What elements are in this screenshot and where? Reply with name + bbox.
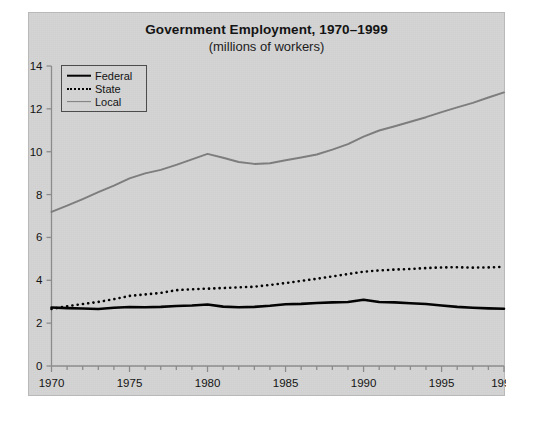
chart-figure: Government Employment, 1970–1999 (millio… xyxy=(28,12,505,396)
legend: Federal State Local xyxy=(61,65,147,112)
x-tick-label-group: 1970197519801985199019951999 xyxy=(39,377,506,389)
legend-item-local: Local xyxy=(66,95,142,108)
y-tick-label: 4 xyxy=(36,274,43,286)
legend-label-state: State xyxy=(95,83,121,95)
y-tick-label: 2 xyxy=(36,317,42,329)
legend-label-local: Local xyxy=(95,96,121,108)
legend-swatch-local-icon xyxy=(66,95,92,108)
legend-swatch-state-icon xyxy=(66,82,92,95)
x-tick-label: 1980 xyxy=(195,377,221,389)
x-tick-label: 1995 xyxy=(429,377,455,389)
y-tick-label: 12 xyxy=(30,103,43,115)
y-tick-label: 6 xyxy=(36,231,42,243)
series-line-state xyxy=(52,267,505,309)
legend-swatch-federal-icon xyxy=(66,69,92,82)
x-tick-label: 1985 xyxy=(273,377,299,389)
legend-item-federal: Federal xyxy=(66,69,142,82)
y-tick-label: 8 xyxy=(36,189,42,201)
x-tick-label: 1970 xyxy=(39,377,65,389)
series-line-federal xyxy=(52,300,505,309)
y-tick-group xyxy=(47,66,52,366)
legend-item-state: State xyxy=(66,82,142,95)
x-tick-label: 1999 xyxy=(491,377,506,389)
x-tick-group xyxy=(52,366,505,372)
y-tick-label: 0 xyxy=(36,360,42,372)
y-tick-label: 10 xyxy=(30,146,43,158)
legend-label-federal: Federal xyxy=(95,70,132,82)
y-tick-label: 14 xyxy=(30,60,43,72)
y-tick-label-group: 02468101214 xyxy=(30,60,43,372)
series-layer xyxy=(52,92,505,309)
x-tick-label: 1990 xyxy=(351,377,377,389)
x-tick-label: 1975 xyxy=(117,377,143,389)
